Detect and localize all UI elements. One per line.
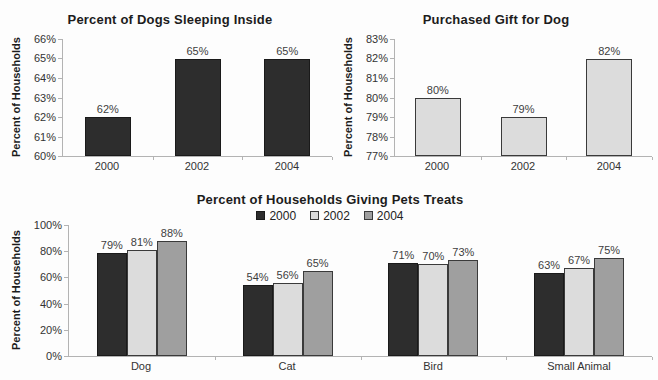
legend-item: 2002: [310, 209, 350, 223]
y-tick-mark: [58, 117, 62, 118]
bar-value-label: 54%: [247, 271, 269, 283]
bar: 56%: [273, 283, 303, 356]
bar-value-label: 65%: [186, 45, 208, 57]
y-tick-label: 60%: [40, 271, 62, 283]
bar-group: 79%: [481, 39, 567, 156]
y-tick-mark: [58, 156, 62, 157]
x-category-label: 2004: [566, 160, 652, 172]
bar: 67%: [564, 268, 594, 356]
y-tick-label: 83%: [366, 33, 388, 45]
bar: 63%: [534, 273, 564, 356]
bar-value-label: 80%: [427, 84, 449, 96]
y-axis: 100%80%60%40%20%0%: [24, 225, 68, 356]
x-category-label: 2000: [62, 160, 152, 172]
y-tick-label: 80%: [40, 245, 62, 257]
bar-group: 65%: [153, 39, 243, 156]
y-tick-mark: [64, 251, 68, 252]
y-tick-label: 60%: [34, 150, 56, 162]
bar-group: 80%: [395, 39, 481, 156]
x-category-label: Small Animal: [506, 360, 652, 372]
y-tick-label: 66%: [34, 33, 56, 45]
bar-group: 62%: [63, 39, 153, 156]
y-tick-label: 79%: [366, 111, 388, 123]
y-tick-label: 65%: [34, 52, 56, 64]
y-tick-label: 100%: [34, 219, 62, 231]
x-tick-mark: [481, 157, 482, 160]
bar-group: 71%70%73%: [361, 225, 507, 356]
legend-swatch: [310, 211, 319, 220]
plot-area: 62%65%65%: [62, 39, 332, 157]
y-tick-mark: [64, 304, 68, 305]
y-tick-mark: [58, 137, 62, 138]
x-tick-mark: [361, 357, 362, 360]
bar: 70%: [418, 264, 448, 356]
chart-title: Percent of Dogs Sleeping Inside: [8, 12, 332, 27]
y-tick-label: 40%: [40, 298, 62, 310]
y-tick-mark: [390, 58, 394, 59]
bar-value-label: 79%: [101, 239, 123, 251]
y-tick-mark: [58, 58, 62, 59]
chart-title: Purchased Gift for Dog: [340, 12, 652, 27]
bar: 62%: [85, 117, 131, 156]
bar: 65%: [303, 271, 333, 356]
bar-value-label: 73%: [452, 246, 474, 258]
bar-value-label: 56%: [277, 269, 299, 281]
x-category-label: Bird: [360, 360, 506, 372]
bar-groups: 79%81%88%54%56%65%71%70%73%63%67%75%: [69, 225, 652, 356]
y-tick-mark: [64, 330, 68, 331]
chart-percent-dogs-sleeping-inside: Percent of Dogs Sleeping Inside Percent …: [8, 2, 332, 184]
x-axis-labels: 200020022004: [394, 157, 652, 174]
x-tick-mark: [652, 357, 653, 360]
bar-group: 65%: [242, 39, 332, 156]
bar-value-label: 70%: [422, 250, 444, 262]
legend-swatch: [364, 211, 373, 220]
y-tick-label: 20%: [40, 324, 62, 336]
bar-value-label: 75%: [598, 244, 620, 256]
bar-value-label: 71%: [392, 249, 414, 261]
bar-group: 82%: [566, 39, 652, 156]
y-tick-label: 64%: [34, 72, 56, 84]
x-category-label: 2000: [394, 160, 480, 172]
x-tick-mark: [652, 157, 653, 160]
bar-groups: 62%65%65%: [63, 39, 332, 156]
chart-households-giving-pets-treats: Percent of Households Giving Pets Treats…: [8, 186, 652, 378]
chart-title: Percent of Households Giving Pets Treats: [8, 192, 652, 207]
bar-group: 54%56%65%: [215, 225, 361, 356]
y-tick-label: 63%: [34, 92, 56, 104]
plot-area: 79%81%88%54%56%65%71%70%73%63%67%75%: [68, 225, 652, 357]
x-tick-mark: [332, 157, 333, 160]
y-tick-mark: [64, 356, 68, 357]
legend-item: 2000: [256, 209, 296, 223]
y-tick-label: 78%: [366, 131, 388, 143]
y-tick-mark: [390, 156, 394, 157]
bar-value-label: 65%: [276, 45, 298, 57]
y-tick-label: 62%: [34, 111, 56, 123]
bar: 54%: [243, 285, 273, 356]
y-axis: 83%82%81%80%79%78%77%: [356, 39, 394, 156]
legend-label: 2002: [323, 209, 350, 223]
bar-value-label: 82%: [598, 45, 620, 57]
pet-statistics-dashboard: Percent of Dogs Sleeping Inside Percent …: [0, 0, 658, 380]
y-tick-mark: [58, 98, 62, 99]
bar: 80%: [415, 98, 461, 157]
y-tick-mark: [390, 78, 394, 79]
bar: 71%: [388, 263, 418, 356]
y-tick-label: 61%: [34, 131, 56, 143]
bar: 75%: [594, 258, 624, 356]
y-tick-label: 77%: [366, 150, 388, 162]
y-tick-mark: [58, 39, 62, 40]
y-tick-label: 82%: [366, 52, 388, 64]
x-category-label: 2002: [152, 160, 242, 172]
legend-item: 2004: [364, 209, 404, 223]
y-tick-mark: [390, 98, 394, 99]
y-tick-mark: [64, 225, 68, 226]
y-tick-label: 0%: [46, 350, 62, 362]
x-tick-mark: [506, 357, 507, 360]
y-tick-label: 80%: [366, 92, 388, 104]
x-category-label: Dog: [68, 360, 214, 372]
bar: 73%: [448, 260, 478, 356]
x-category-label: 2002: [480, 160, 566, 172]
x-tick-mark: [215, 357, 216, 360]
bar: 82%: [586, 59, 632, 157]
y-axis-title: Percent of Households: [8, 225, 24, 356]
